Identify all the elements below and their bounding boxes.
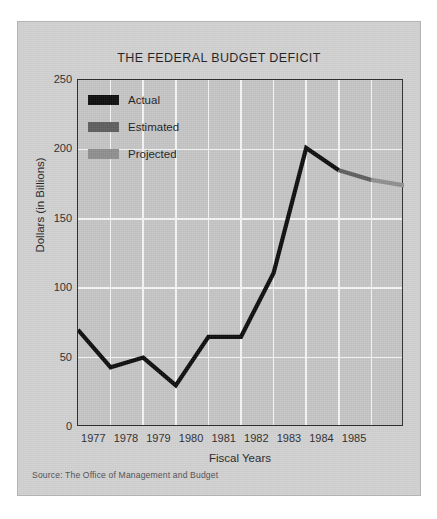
source-note: Source: The Office of Management and Bud… xyxy=(32,470,218,480)
y-tick-label: 0 xyxy=(28,420,72,432)
legend-item-label: Estimated xyxy=(128,121,179,133)
y-tick-label: 250 xyxy=(28,73,72,85)
legend-item-label: Actual xyxy=(128,94,160,106)
x-axis-label: Fiscal Years xyxy=(77,452,403,464)
series-line-projected xyxy=(371,180,404,186)
chart-legend: ActualEstimatedProjected xyxy=(88,88,238,169)
chart-card: THE FEDERAL BUDGET DEFICIT 0501001502002… xyxy=(18,22,420,495)
legend-item-estimated: Estimated xyxy=(88,115,238,138)
chart-title: THE FEDERAL BUDGET DEFICIT xyxy=(18,51,420,65)
series-line-estimated xyxy=(339,170,372,180)
legend-swatch-estimated xyxy=(88,122,119,132)
x-tick-label: 1985 xyxy=(332,432,376,444)
legend-item-label: Projected xyxy=(128,148,177,160)
y-axis-label: Dollars (in Billions) xyxy=(34,120,46,290)
series-line-actual xyxy=(78,148,339,385)
legend-swatch-projected xyxy=(88,149,119,159)
legend-item-projected: Projected xyxy=(88,142,238,165)
figure-canvas: THE FEDERAL BUDGET DEFICIT 0501001502002… xyxy=(0,0,437,519)
legend-swatch-actual xyxy=(88,95,119,105)
legend-item-actual: Actual xyxy=(88,88,238,111)
y-tick-label: 50 xyxy=(28,351,72,363)
x-axis-ticks: 197719781979198019811982198319841985 xyxy=(77,432,403,450)
y-axis-ticks: 050100150200250 xyxy=(26,79,72,426)
